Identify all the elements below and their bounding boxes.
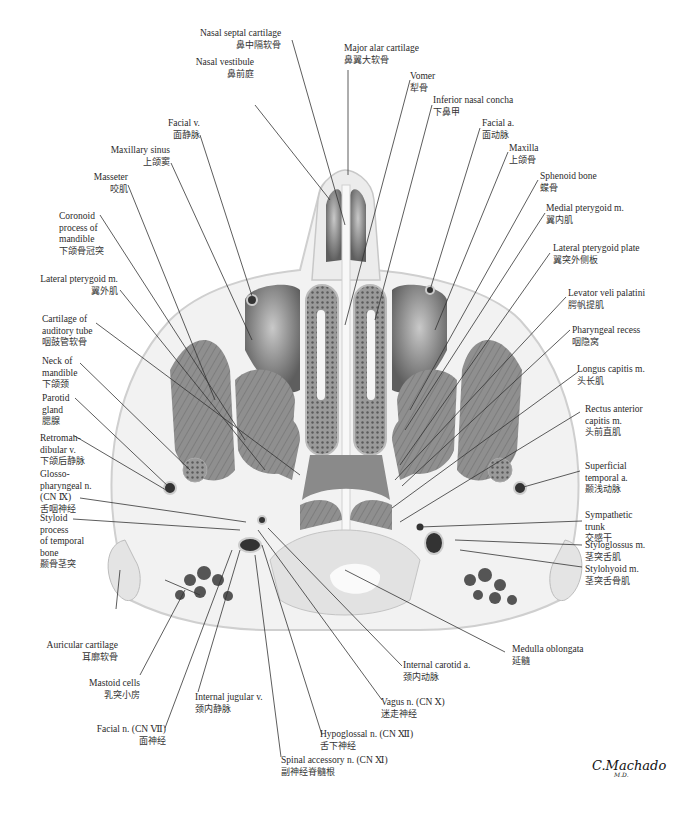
label-inferior-nasal-concha: Inferior nasal concha 下鼻甲 xyxy=(433,95,513,118)
label-vagus-n: Vagus n. (CN Ⅹ) 迷走神经 xyxy=(381,697,445,720)
label-medial-pterygoid: Medial pterygoid m. 翼内肌 xyxy=(546,203,624,226)
label-coronoid-process: Coronoid process of mandible 下颌骨冠突 xyxy=(59,211,104,257)
label-nasal-septal-cartilage: Nasal septal cartilage 鼻中隔软骨 xyxy=(200,28,281,51)
label-styloid-process: Styloid process of temporal bone 颞骨茎突 xyxy=(40,513,84,571)
label-maxilla: Maxilla 上颌骨 xyxy=(509,143,539,166)
label-internal-carotid-a: Internal carotid a. 颈内动脉 xyxy=(403,660,470,683)
head-section xyxy=(108,170,582,630)
label-mastoid-cells: Mastoid cells 乳突小房 xyxy=(60,678,140,701)
label-retromandibular-v: Retroman- dibular v. 下颌后静脉 xyxy=(40,433,85,468)
label-neck-of-mandible: Neck of mandible 下颌颈 xyxy=(42,356,77,391)
label-lateral-pterygoid-plate: Lateral pterygoid plate 翼突外侧板 xyxy=(553,243,640,266)
label-internal-jugular-v: Internal jugular v. 颈内静脉 xyxy=(195,692,263,715)
label-parotid-gland: Parotid gland 腮腺 xyxy=(42,393,69,428)
label-sphenoid-bone: Sphenoid bone 蝶骨 xyxy=(540,171,597,194)
label-lateral-pterygoid-m: Lateral pterygoid m. 翼外肌 xyxy=(30,274,118,297)
anatomy-figure: Nasal septal cartilage 鼻中隔软骨 Major alar … xyxy=(0,0,686,820)
label-rectus-anterior-capitis: Rectus anterior capitis m. 头前直肌 xyxy=(585,404,643,439)
label-vomer: Vomer 犁骨 xyxy=(410,71,435,94)
label-hypoglossal-n: Hypoglossal n. (CN Ⅻ) 舌下神经 xyxy=(320,729,413,752)
label-cartilage-auditory-tube: Cartilage of auditory tube 咽鼓管软骨 xyxy=(42,314,92,349)
label-spinal-accessory-n: Spinal accessory n. (CN Ⅺ) 副神经脊髓根 xyxy=(281,755,388,778)
label-glossopharyngeal-n: Glosso- pharyngeal n. (CN Ⅸ) 舌咽神经 xyxy=(40,469,92,515)
label-masseter: Masseter 咬肌 xyxy=(80,172,128,195)
label-facial-a: Facial a. 面动脉 xyxy=(482,118,514,141)
label-auricular-cartilage: Auricular cartilage 耳廓软骨 xyxy=(30,640,118,663)
label-facial-v: Facial v. 面静脉 xyxy=(150,118,200,141)
label-major-alar-cartilage: Major alar cartilage 鼻翼大软骨 xyxy=(344,43,419,66)
label-superficial-temporal-a: Superficial temporal a. 颞浅动脉 xyxy=(585,461,628,496)
artist-signature: C.Machado M.D. xyxy=(592,758,666,778)
label-maxillary-sinus: Maxillary sinus 上颌窦 xyxy=(100,145,170,168)
label-longus-capitis: Longus capitis m. 头长肌 xyxy=(577,364,645,387)
label-stylohyoid: Stylohyoid m. 茎突舌骨肌 xyxy=(585,564,639,587)
label-levator-veli-palatini: Levator veli palatini 腭帆提肌 xyxy=(568,288,645,311)
label-styloglossus: Styloglossus m. 茎突舌肌 xyxy=(585,540,645,563)
label-medulla-oblongata: Medulla oblongata 延髓 xyxy=(512,644,584,667)
label-nasal-vestibule: Nasal vestibule 鼻前庭 xyxy=(190,57,254,80)
label-facial-n: Facial n. (CN Ⅶ) 面神经 xyxy=(80,724,166,747)
label-pharyngeal-recess: Pharyngeal recess 咽隐窝 xyxy=(572,325,640,348)
